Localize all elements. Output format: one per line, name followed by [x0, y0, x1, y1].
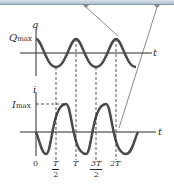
t-axis-label-bottom: t: [158, 127, 162, 137]
tick-t: T: [73, 160, 78, 168]
q-axis-label: q: [32, 20, 38, 30]
tick-2t: 2T: [110, 160, 120, 168]
tick-0: 0: [33, 160, 38, 168]
i-axis-label: i: [33, 85, 36, 95]
imax-label: Imax: [12, 100, 31, 110]
tick-t-half: T2: [52, 160, 59, 179]
pointer-line-2: [119, 7, 157, 128]
waveform-diagram: [0, 0, 174, 188]
pointer-line-1: [86, 7, 118, 36]
t-axis-label-top: t: [153, 48, 157, 58]
current-curve: [36, 104, 138, 154]
qmax-label: Qmax: [9, 33, 32, 43]
tick-3t-half: 3T2: [90, 160, 102, 179]
